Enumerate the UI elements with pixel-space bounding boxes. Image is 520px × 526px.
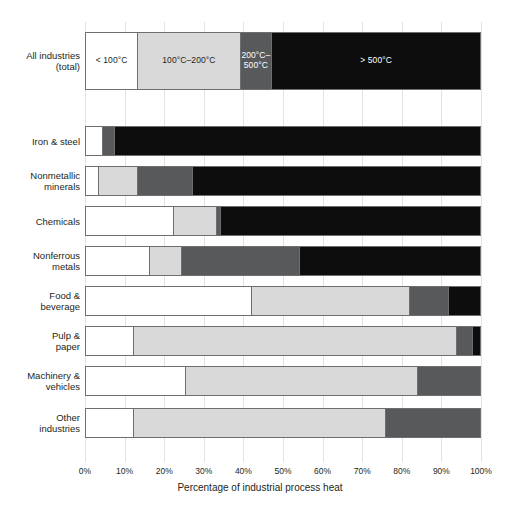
bar-segment: [86, 367, 185, 395]
bar-rows: < 100°C100°C–200°C200°C– 500°C> 500°C: [85, 22, 481, 462]
bar-row: [85, 246, 481, 276]
segment-legend-label: 100°C–200°C: [162, 56, 215, 66]
bar-segment: [133, 409, 385, 437]
row-label-3: Chemicals: [0, 216, 80, 227]
bar-segment: [86, 327, 133, 355]
bar-segment: [137, 167, 192, 195]
bar-segment: 100°C–200°C: [137, 33, 239, 89]
x-tick-label-10pct: 10%: [116, 466, 133, 476]
segment-legend-label: > 500°C: [360, 56, 392, 66]
bar-segment: [98, 167, 137, 195]
bar-segment: [102, 127, 114, 155]
x-tick-label-70pct: 70%: [354, 466, 371, 476]
bar-row: < 100°C100°C–200°C200°C– 500°C> 500°C: [85, 32, 481, 90]
bar-row: [85, 166, 481, 196]
x-tick-label-50pct: 50%: [274, 466, 291, 476]
row-label-0: All industries (total): [0, 50, 80, 72]
category-axis-labels: All industries (total)Iron & steelNonmet…: [0, 22, 80, 462]
bar-segment: [192, 167, 480, 195]
bar-segment: 200°C– 500°C: [240, 33, 272, 89]
bar-segment: [409, 287, 448, 315]
bar-segment: [456, 327, 472, 355]
bar-segment: [173, 207, 216, 235]
x-tick-label-30pct: 30%: [195, 466, 212, 476]
row-label-7: Machinery & vehicles: [0, 370, 80, 392]
plot-area: < 100°C100°C–200°C200°C– 500°C> 500°C: [85, 22, 481, 462]
x-axis-ticks: 0%10%20%30%40%50%60%70%80%90%100%: [85, 466, 481, 480]
bar-segment: [181, 247, 299, 275]
bar-segment: > 500°C: [271, 33, 480, 89]
bar-row: [85, 326, 481, 356]
bar-segment: [417, 367, 480, 395]
bar-segment: [220, 207, 480, 235]
bar-row: [85, 408, 481, 438]
gridline-100: [481, 22, 482, 462]
x-tick-label-90pct: 90%: [433, 466, 450, 476]
bar-segment: [133, 327, 456, 355]
bar-segment: [251, 287, 409, 315]
bar-segment: [448, 287, 480, 315]
x-tick-label-80pct: 80%: [393, 466, 410, 476]
row-label-6: Pulp & paper: [0, 330, 80, 352]
bar-segment: [86, 207, 173, 235]
bar-row: [85, 206, 481, 236]
x-tick-label-20pct: 20%: [156, 466, 173, 476]
bar-segment: [149, 247, 181, 275]
x-tick-label-100pct: 100%: [470, 466, 492, 476]
bar-segment: [472, 327, 480, 355]
row-label-5: Food & beverage: [0, 290, 80, 312]
row-label-8: Other industries: [0, 412, 80, 434]
segment-legend-label: < 100°C: [96, 56, 128, 66]
bar-segment: < 100°C: [86, 33, 137, 89]
bar-segment: [86, 167, 98, 195]
bar-segment: [86, 409, 133, 437]
x-tick-label-60pct: 60%: [314, 466, 331, 476]
bar-segment: [385, 409, 480, 437]
bar-row: [85, 366, 481, 396]
row-label-2: Nonmetallic minerals: [0, 170, 80, 192]
bar-segment: [185, 367, 417, 395]
x-axis-title: Percentage of industrial process heat: [0, 482, 520, 493]
x-tick-label-0pct: 0%: [79, 466, 91, 476]
bar-segment: [86, 247, 149, 275]
x-tick-label-40pct: 40%: [235, 466, 252, 476]
bar-segment: [86, 127, 102, 155]
bar-segment: [86, 287, 251, 315]
row-label-4: Nonferrous metals: [0, 250, 80, 272]
bar-segment: [299, 247, 480, 275]
stacked-bar-chart: All industries (total)Iron & steelNonmet…: [0, 0, 520, 526]
bar-row: [85, 126, 481, 156]
row-label-1: Iron & steel: [0, 136, 80, 147]
segment-legend-label: 200°C– 500°C: [241, 51, 270, 71]
bar-segment: [114, 127, 480, 155]
bar-row: [85, 286, 481, 316]
